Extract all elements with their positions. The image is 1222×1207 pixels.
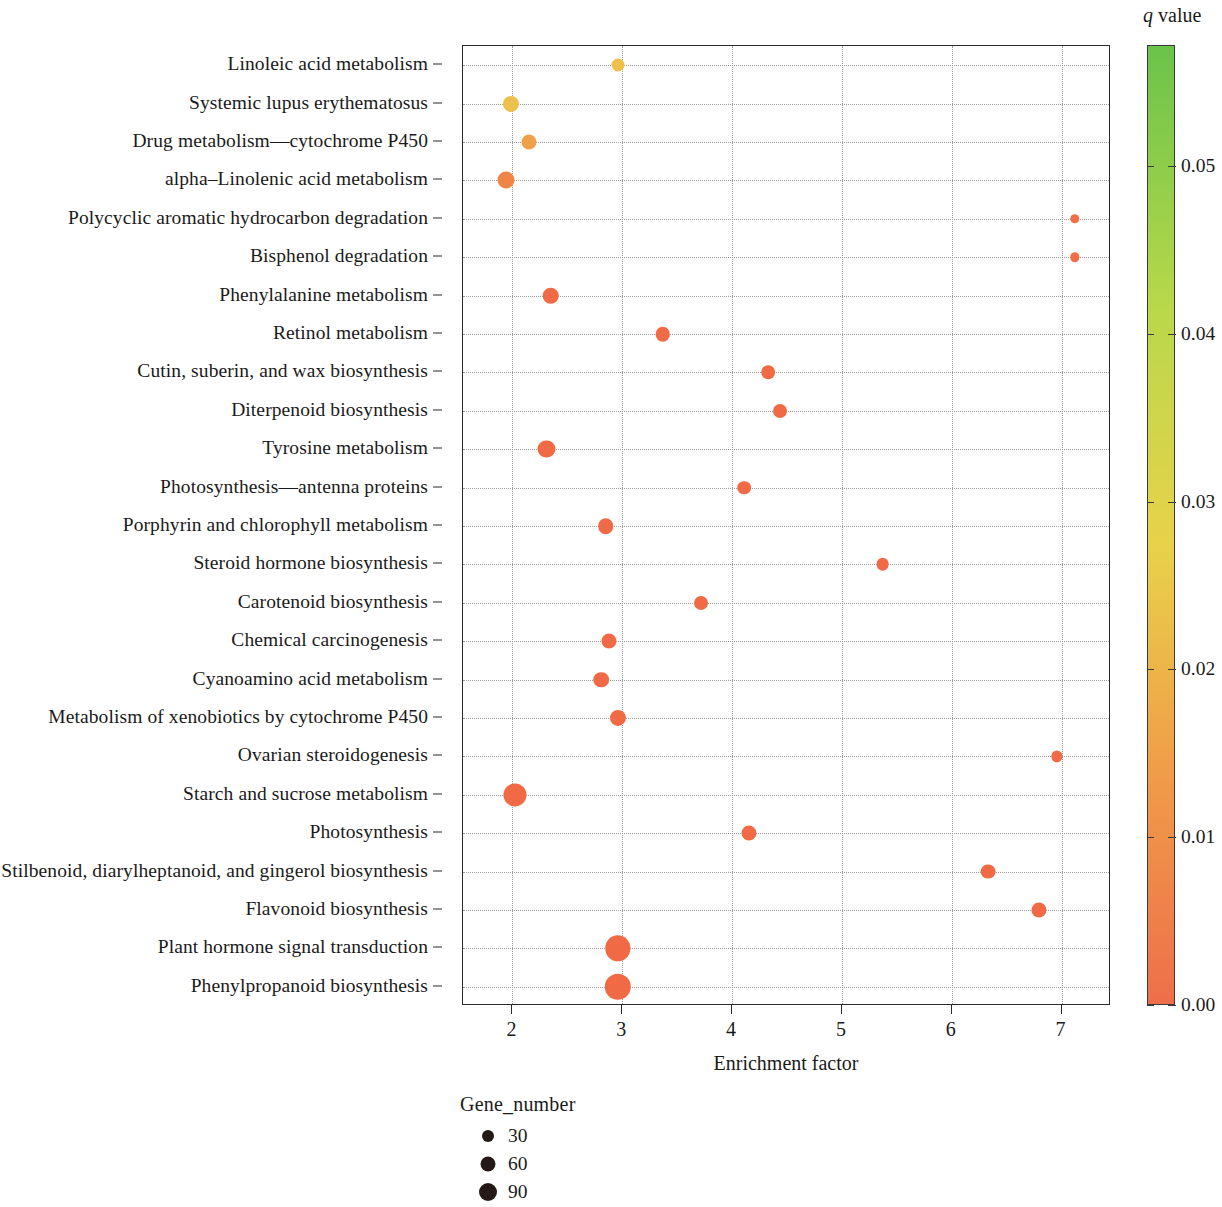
y-axis-tick-label: Carotenoid biosynthesis [238, 591, 428, 613]
x-axis-tick-label: 3 [616, 1018, 626, 1041]
size-legend-dot [479, 1183, 497, 1201]
y-axis-tick-label: Diterpenoid biosynthesis [231, 399, 428, 421]
color-legend-tick-mark [1168, 837, 1176, 838]
y-axis-tick-label: Steroid hormone biosynthesis [193, 552, 428, 574]
color-legend-tick-mark [1168, 334, 1176, 335]
gridline-horizontal [463, 334, 1109, 335]
data-point-bubble [694, 596, 708, 610]
data-point-bubble [594, 672, 610, 688]
plot-area [462, 45, 1110, 1005]
color-legend: q value 0.050.040.030.020.010.00 [1143, 0, 1222, 1010]
gridline-vertical [1062, 46, 1063, 1004]
color-legend-tick-mark [1147, 166, 1154, 167]
color-legend-tick-label: 0.04 [1181, 323, 1215, 345]
x-axis-tick-label: 4 [726, 1018, 736, 1041]
gridline-horizontal [463, 910, 1109, 911]
data-point-bubble [610, 710, 626, 726]
data-point-bubble [981, 864, 996, 879]
gridline-horizontal [463, 680, 1109, 681]
x-axis-tick-mark [841, 1005, 842, 1014]
x-axis-tick-mark [621, 1005, 622, 1014]
color-legend-tick-mark [1147, 669, 1154, 670]
y-axis-tick-label: Photosynthesis [310, 821, 428, 843]
data-point-bubble [611, 59, 624, 72]
gridline-horizontal [463, 641, 1109, 642]
gridline-horizontal [463, 180, 1109, 181]
y-axis-tick-mark [433, 141, 442, 142]
size-legend-title: Gene_number [460, 1093, 700, 1116]
gridline-horizontal [463, 833, 1109, 834]
x-axis-tick-label: 5 [836, 1018, 846, 1041]
y-axis-tick-mark [433, 486, 442, 487]
y-axis-tick-label: Polycyclic aromatic hydrocarbon degradat… [68, 207, 428, 229]
y-axis-tick-label: Linoleic acid metabolism [227, 53, 428, 75]
y-axis-tick-mark [433, 793, 442, 794]
color-legend-title-rest: value [1153, 4, 1201, 26]
data-point-bubble [538, 441, 555, 458]
gridline-horizontal [463, 987, 1109, 988]
color-legend-tick-label: 0.02 [1181, 658, 1215, 680]
size-legend-label: 30 [508, 1125, 528, 1147]
y-axis-tick-label: Tyrosine metabolism [262, 437, 428, 459]
y-axis-tick-label: Drug metabolism—cytochrome P450 [132, 130, 428, 152]
y-axis-tick-mark [433, 640, 442, 641]
kegg-enrichment-bubble-chart: Linoleic acid metabolismSystemic lupus e… [0, 0, 1222, 1207]
gridline-horizontal [463, 219, 1109, 220]
x-axis-tick-mark [731, 1005, 732, 1014]
y-axis-tick-label: Bisphenol degradation [250, 245, 428, 267]
y-axis-tick-mark [433, 947, 442, 948]
y-axis-tick-mark [433, 448, 442, 449]
gridline-horizontal [463, 564, 1109, 565]
gridline-horizontal [463, 795, 1109, 796]
gridline-horizontal [463, 526, 1109, 527]
x-axis-tick-label: 2 [506, 1018, 516, 1041]
data-point-bubble [773, 404, 787, 418]
y-axis-tick-mark [433, 909, 442, 910]
y-axis-tick-label: Chemical carcinogenesis [231, 629, 428, 651]
size-legend-label: 90 [508, 1181, 528, 1203]
y-axis-tick-label: Photosynthesis—antenna proteins [160, 476, 428, 498]
x-axis-tick-label: 6 [946, 1018, 956, 1041]
size-legend-dot [481, 1157, 496, 1172]
x-axis-tick-mark [1061, 1005, 1062, 1014]
gridline-horizontal [463, 449, 1109, 450]
data-point-bubble [521, 134, 536, 149]
y-axis-tick-mark [433, 755, 442, 756]
y-axis-tick-label: Phenylpropanoid biosynthesis [191, 975, 428, 997]
color-legend-tick-label: 0.03 [1181, 491, 1215, 513]
gridline-vertical [842, 46, 843, 1004]
size-legend: Gene_number 306090 [460, 1093, 700, 1206]
y-axis-tick-label: Systemic lupus erythematosus [189, 92, 428, 114]
x-axis-tick-label: 7 [1056, 1018, 1066, 1041]
y-axis-tick-mark [433, 717, 442, 718]
y-axis-tick-label: Plant hormone signal transduction [158, 936, 428, 958]
y-axis-tick-label: Cutin, suberin, and wax biosynthesis [137, 360, 428, 382]
gridline-horizontal [463, 296, 1109, 297]
data-point-bubble [497, 172, 514, 189]
color-legend-tick-mark [1147, 1005, 1154, 1006]
x-axis-title: Enrichment factor [462, 1052, 1110, 1075]
data-point-bubble [656, 327, 671, 342]
color-legend-tick-mark [1147, 502, 1154, 503]
y-axis-tick-label: Phenylalanine metabolism [219, 284, 428, 306]
gridline-horizontal [463, 104, 1109, 105]
data-point-bubble [605, 936, 630, 961]
y-axis-tick-mark [433, 563, 442, 564]
y-axis-tick-mark [433, 678, 442, 679]
size-legend-item: 30 [460, 1122, 700, 1150]
y-axis: Linoleic acid metabolismSystemic lupus e… [0, 45, 448, 1005]
data-point-bubble [602, 634, 617, 649]
x-axis-tick-mark [511, 1005, 512, 1014]
y-axis-tick-label: Cyanoamino acid metabolism [193, 668, 428, 690]
color-legend-tick-mark [1168, 1005, 1176, 1006]
y-axis-tick-mark [433, 601, 442, 602]
gridline-horizontal [463, 372, 1109, 373]
size-legend-rows: 306090 [460, 1122, 700, 1206]
color-gradient-bar [1147, 45, 1175, 1005]
size-legend-item: 60 [460, 1150, 700, 1178]
color-legend-tick-mark [1168, 166, 1176, 167]
data-point-bubble [605, 974, 631, 1000]
y-axis-tick-label: Flavonoid biosynthesis [245, 898, 428, 920]
gridline-vertical [952, 46, 953, 1004]
data-point-bubble [503, 96, 519, 112]
